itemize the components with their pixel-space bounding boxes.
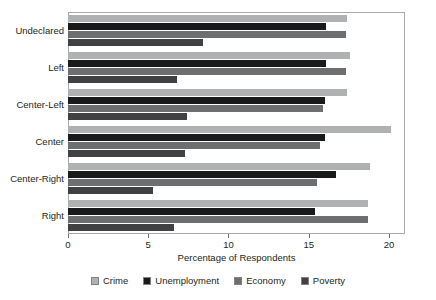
chart-legend: CrimeUnemploymentEconomyPoverty (0, 275, 436, 286)
legend-item-economy[interactable]: Economy (234, 275, 286, 286)
legend-swatch-poverty (301, 277, 309, 285)
x-tick-mark (148, 234, 149, 238)
x-tick-mark (228, 234, 229, 238)
bar-unemployment-center (68, 134, 325, 141)
bar-crime-center-right (68, 163, 370, 170)
bar-poverty-center-right (68, 187, 153, 194)
legend-swatch-economy (234, 277, 242, 285)
plot-area (68, 12, 405, 234)
y-axis-label-undeclared: Undeclared (2, 25, 64, 36)
bar-economy-left (68, 68, 346, 75)
bar-group (68, 160, 405, 197)
legend-label-poverty: Poverty (313, 275, 345, 286)
bar-poverty-right (68, 224, 174, 231)
x-tick-mark (309, 234, 310, 238)
y-axis-label-right: Right (2, 210, 64, 221)
bar-group (68, 123, 405, 160)
bar-economy-undeclared (68, 31, 346, 38)
x-tick-mark (68, 234, 69, 238)
legend-label-crime: Crime (103, 275, 128, 286)
x-tick-label-20: 20 (384, 239, 395, 250)
legend-swatch-crime (91, 277, 99, 285)
x-tick-label-5: 5 (146, 239, 151, 250)
legend-item-poverty[interactable]: Poverty (301, 275, 345, 286)
x-tick-label-15: 15 (303, 239, 314, 250)
bar-poverty-center-left (68, 113, 187, 120)
bar-crime-right (68, 200, 368, 207)
y-axis-labels: UndeclaredLeftCenter-LeftCenterCenter-Ri… (0, 12, 64, 234)
bar-economy-center (68, 142, 320, 149)
legend-label-economy: Economy (246, 275, 286, 286)
bar-poverty-left (68, 76, 177, 83)
bar-economy-right (68, 216, 368, 223)
bar-unemployment-center-left (68, 97, 325, 104)
bar-unemployment-undeclared (68, 23, 326, 30)
legend-label-unemployment: Unemployment (155, 275, 219, 286)
bar-poverty-undeclared (68, 39, 203, 46)
bar-group (68, 12, 405, 49)
x-axis-title: Percentage of Respondents (68, 252, 405, 264)
bar-unemployment-right (68, 208, 315, 215)
bar-unemployment-center-right (68, 171, 336, 178)
x-tick-label-10: 10 (223, 239, 234, 250)
x-tick-mark (389, 234, 390, 238)
bar-economy-center-left (68, 105, 323, 112)
bar-crime-center-left (68, 89, 347, 96)
legend-swatch-unemployment (143, 277, 151, 285)
x-tick-label-0: 0 (65, 239, 70, 250)
bar-unemployment-left (68, 60, 326, 67)
legend-item-unemployment[interactable]: Unemployment (143, 275, 219, 286)
legend-item-crime[interactable]: Crime (91, 275, 128, 286)
y-axis-label-center: Center (2, 136, 64, 147)
bar-economy-center-right (68, 179, 317, 186)
y-axis-label-left: Left (2, 62, 64, 73)
bar-crime-center (68, 126, 391, 133)
bar-crime-undeclared (68, 15, 347, 22)
y-axis-label-center-left: Center-Left (2, 99, 64, 110)
bar-chart: UndeclaredLeftCenter-LeftCenterCenter-Ri… (0, 0, 436, 300)
bar-group (68, 49, 405, 86)
bar-crime-left (68, 52, 350, 59)
bar-group (68, 197, 405, 234)
y-axis-label-center-right: Center-Right (2, 173, 64, 184)
bar-poverty-center (68, 150, 185, 157)
x-axis-ticks: 05101520 (68, 234, 405, 254)
bar-group (68, 86, 405, 123)
